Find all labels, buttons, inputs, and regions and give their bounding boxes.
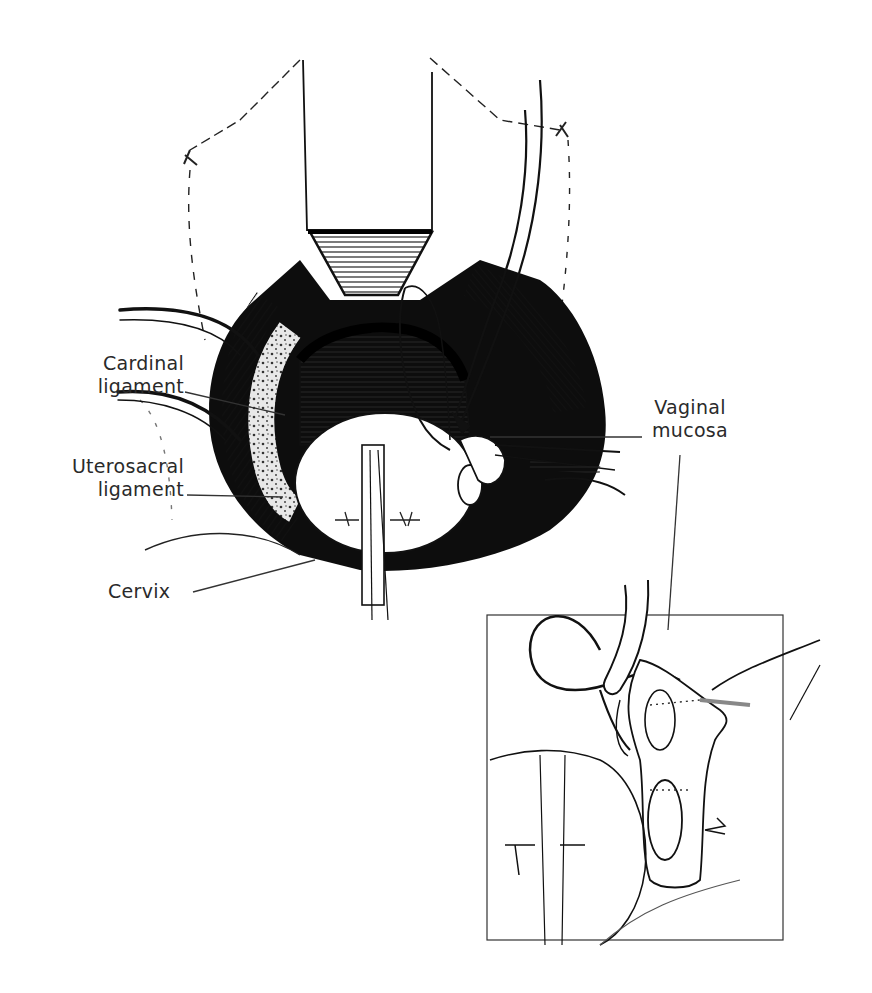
label-vaginal-mucosa: Vaginal mucosa (640, 396, 740, 442)
label-line: Uterosacral (40, 455, 184, 478)
label-uterosacral-ligament: Uterosacral ligament (40, 455, 184, 501)
inset-detail (487, 580, 820, 945)
leader-cervix (193, 560, 315, 592)
upper-retractor-blade (303, 60, 432, 295)
label-line: ligament (70, 375, 184, 398)
leader-vaginal-inset (668, 455, 680, 630)
label-line: ligament (40, 478, 184, 501)
label-line: Vaginal (640, 396, 740, 419)
label-cervix: Cervix (108, 580, 198, 603)
label-line: Cardinal (70, 352, 184, 375)
label-line: mucosa (640, 419, 740, 442)
label-line: Cervix (108, 580, 198, 603)
label-cardinal-ligament: Cardinal ligament (70, 352, 184, 398)
illustration-canvas: Cardinal ligament Uterosacral ligament C… (0, 0, 872, 993)
